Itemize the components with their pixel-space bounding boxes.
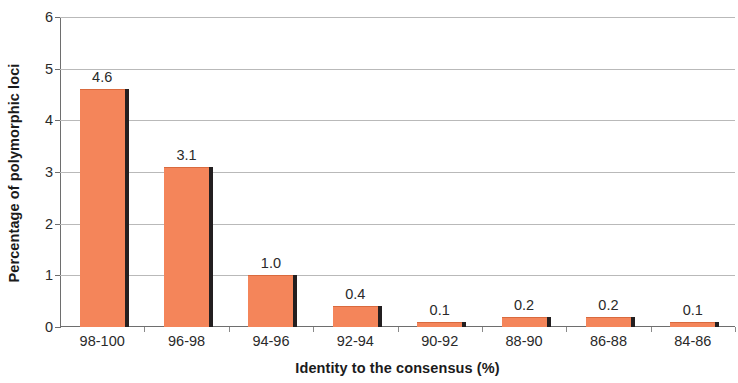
x-axis-tickmark	[144, 327, 145, 332]
bar-value-label: 0.1	[430, 302, 450, 318]
plot-area: 4.63.11.00.40.10.20.20.1	[60, 17, 735, 327]
x-axis-tick-label: 98-100	[80, 333, 125, 349]
x-axis-tickmark	[735, 327, 736, 332]
bar-value-label: 0.4	[345, 286, 365, 302]
bars-layer: 4.63.11.00.40.10.20.20.1	[60, 17, 735, 327]
bar[interactable]	[333, 306, 378, 327]
x-axis-tickmark	[566, 327, 567, 332]
bar[interactable]	[417, 322, 462, 327]
bar-shadow	[715, 322, 719, 327]
bar-shadow	[631, 317, 635, 327]
bar-group[interactable]: 0.2	[502, 17, 547, 327]
x-axis-tick-label: 96-98	[168, 333, 205, 349]
bar-shadow	[209, 167, 213, 327]
x-axis-tick-label: 92-94	[337, 333, 374, 349]
bar[interactable]	[80, 89, 125, 327]
bar-group[interactable]: 0.1	[670, 17, 715, 327]
y-axis-tick-label: 3	[34, 164, 53, 180]
y-axis-title: Percentage of polymorphic loci	[3, 8, 25, 338]
x-axis-title: Identity to the consensus (%)	[60, 360, 735, 376]
bar[interactable]	[670, 322, 715, 327]
bar[interactable]	[248, 275, 293, 327]
x-axis-tickmark	[651, 327, 652, 332]
y-axis-tickmark	[55, 327, 60, 328]
bar-value-label: 0.1	[683, 302, 703, 318]
bar-group[interactable]: 0.2	[586, 17, 631, 327]
bar-value-label: 0.2	[598, 297, 618, 313]
bar-group[interactable]: 3.1	[164, 17, 209, 327]
bar[interactable]	[586, 317, 631, 327]
x-axis-tick-label: 90-92	[421, 333, 458, 349]
bar-group[interactable]: 4.6	[80, 17, 125, 327]
bar[interactable]	[164, 167, 209, 327]
bar-shadow	[547, 317, 551, 327]
bar-group[interactable]: 0.4	[333, 17, 378, 327]
bar-group[interactable]: 0.1	[417, 17, 462, 327]
y-axis-tick-label: 1	[34, 267, 53, 283]
bar-value-label: 1.0	[261, 255, 281, 271]
x-axis-tickmark	[482, 327, 483, 332]
bar-value-label: 4.6	[92, 69, 112, 85]
bar-shadow	[293, 275, 297, 327]
bar-chart: Percentage of polymorphic loci 0123456 4…	[0, 0, 738, 383]
bar-shadow	[462, 322, 466, 327]
bar-value-label: 0.2	[514, 297, 534, 313]
x-axis-tick-label: 88-90	[506, 333, 543, 349]
x-axis-tick-labels: 98-10096-9894-9692-9490-9288-9086-8884-8…	[60, 333, 735, 353]
y-axis-tick-label: 2	[34, 216, 53, 232]
y-axis-tick-label: 0	[34, 319, 53, 335]
y-axis-tick-label: 6	[34, 9, 53, 25]
x-axis-tickmark	[229, 327, 230, 332]
y-axis-tick-label: 5	[34, 61, 53, 77]
bar-value-label: 3.1	[176, 147, 196, 163]
bar-shadow	[378, 306, 382, 327]
bar-shadow	[125, 89, 129, 327]
bar-group[interactable]: 1.0	[248, 17, 293, 327]
x-axis-tickmark	[398, 327, 399, 332]
x-axis-tickmark	[313, 327, 314, 332]
y-axis-tick-label: 4	[34, 112, 53, 128]
bar[interactable]	[502, 317, 547, 327]
y-axis-tick-labels: 0123456	[34, 0, 53, 383]
x-axis-tick-label: 94-96	[252, 333, 289, 349]
x-axis-tick-label: 84-86	[674, 333, 711, 349]
x-axis-tick-label: 86-88	[590, 333, 627, 349]
